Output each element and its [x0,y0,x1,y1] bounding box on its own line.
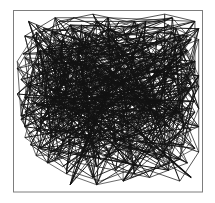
figure-container [0,0,215,203]
random-walk-figure [0,0,215,203]
